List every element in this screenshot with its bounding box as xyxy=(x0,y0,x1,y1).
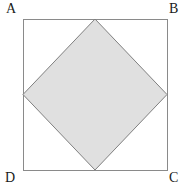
geometry-canvas xyxy=(0,0,189,192)
vertex-label-b: B xyxy=(169,2,178,16)
vertex-label-a: A xyxy=(6,2,16,16)
geometry-figure: A B D C xyxy=(0,0,189,192)
vertex-label-d: D xyxy=(5,171,15,185)
inscribed-diamond-shape xyxy=(23,19,167,170)
vertex-label-c: C xyxy=(169,171,178,185)
